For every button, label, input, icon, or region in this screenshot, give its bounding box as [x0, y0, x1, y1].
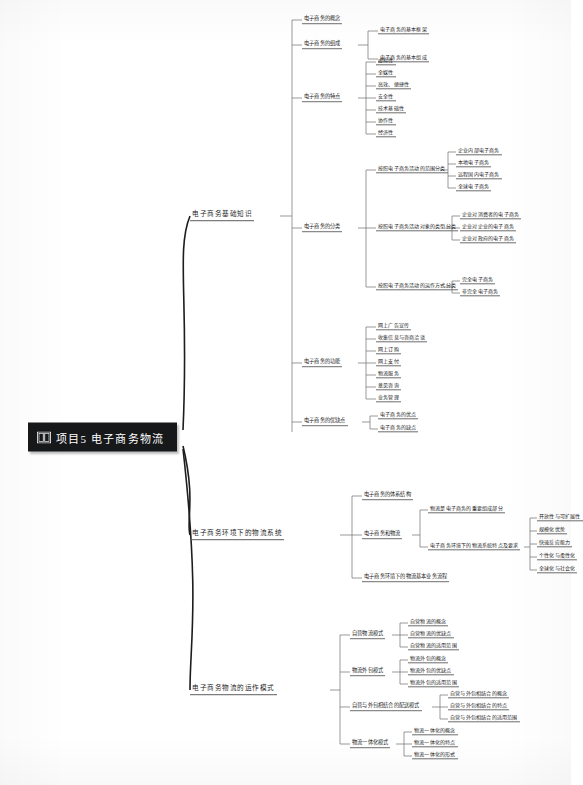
node-ecommerce-features[interactable]: 电子商务的特点 [302, 94, 342, 102]
node-logistics-features-requirements[interactable]: 电子商务环境下的物流系统特点及要求 [428, 543, 520, 550]
node-class-by-operation-mode[interactable]: 按照电子商务活动的运作方式分类 [376, 283, 458, 290]
node-outsourcing-mode[interactable]: 物流外包模式 [350, 668, 385, 676]
node-integration-features[interactable]: 物流一体化的特点 [412, 740, 458, 747]
node-feature-secure[interactable]: 安全性 [376, 94, 396, 101]
node-scope-domestic-remote[interactable]: 远程国内电子商务 [456, 172, 502, 179]
node-outsourcing-concept[interactable]: 物流外包的概念 [408, 656, 448, 663]
node-complete-ecommerce[interactable]: 完全电子商务 [460, 277, 495, 284]
node-scope-local[interactable]: 本地电子商务 [456, 160, 491, 167]
node-hybrid-concept[interactable]: 自营与外包相结合的概念 [448, 691, 509, 698]
node-hybrid-features[interactable]: 自营与外包相结合的特点 [448, 703, 509, 710]
branch-node-operation-modes[interactable]: 电子商务物流的运作模式 [190, 685, 277, 695]
root-label: 项目5 电子商务物流 [56, 429, 164, 445]
node-feature-economic[interactable]: 经济性 [376, 130, 396, 137]
node-integration-mode[interactable]: 物流一体化模式 [350, 740, 390, 748]
node-disadvantages[interactable]: 电子商务的缺点 [378, 425, 418, 432]
open-book-icon [37, 431, 51, 443]
node-ecommerce-and-logistics[interactable]: 电子商务和物流 [362, 531, 402, 539]
node-hybrid-scope[interactable]: 自营与外包相结合的适用范围 [448, 715, 520, 722]
node-ecommerce-classification[interactable]: 电子商务的分类 [302, 224, 342, 232]
branch-node-logistics-system[interactable]: 电子商务环境下的物流系统 [190, 530, 284, 540]
node-function-online-ads[interactable]: 网上广告宣传 [376, 323, 411, 330]
node-scope-global[interactable]: 全球电子商务 [456, 184, 491, 191]
node-personalization-flexibility[interactable]: 个性化与柔性化 [537, 553, 577, 560]
node-integration-concept[interactable]: 物流一体化的概念 [412, 728, 458, 735]
node-ecommerce-composition[interactable]: 电子商务的组成 [302, 41, 342, 49]
node-function-logistics[interactable]: 物流服务 [376, 371, 401, 378]
root-node[interactable]: 项目5 电子商务物流 [28, 423, 177, 452]
node-b2b[interactable]: 企业对企业的电子商务 [460, 224, 516, 231]
node-incomplete-ecommerce[interactable]: 非完全电子商务 [460, 289, 500, 296]
node-function-info-consult[interactable]: 收集信息与咨商洽谈 [376, 335, 427, 342]
node-ecommerce-architecture[interactable]: 电子商务的体系结构 [362, 492, 413, 500]
node-advantages[interactable]: 电子商务的优点 [378, 412, 418, 419]
node-logistics-basic-process[interactable]: 电子商务环境下的物流基本业务流程 [362, 574, 449, 582]
node-scale-advantage[interactable]: 规模化优势 [537, 527, 567, 534]
node-outsourcing-pros-cons[interactable]: 物流外包的优缺点 [408, 668, 454, 675]
node-hybrid-distribution-mode[interactable]: 自营与外包相结合的配送模式 [350, 703, 422, 711]
node-rapid-response[interactable]: 快速反应能力 [537, 540, 572, 547]
node-logistics-key-part[interactable]: 物流是电子商务的重要组成部分 [428, 506, 505, 513]
node-self-operated-mode[interactable]: 自营物流模式 [350, 631, 385, 639]
node-function-online-payment[interactable]: 网上支付 [376, 359, 401, 366]
node-self-operated-scope[interactable]: 自营物流的适用范围 [408, 643, 459, 650]
node-integration-forms[interactable]: 物流一体化的形式 [412, 752, 458, 759]
node-function-online-order[interactable]: 网上订购 [376, 347, 401, 354]
node-function-feedback[interactable]: 意见咨询 [376, 383, 401, 390]
node-ecommerce-concept[interactable]: 电子商务的概念 [302, 16, 342, 24]
node-feature-allmedia[interactable]: 全媒性 [376, 70, 396, 77]
node-globalization-socialization[interactable]: 全球化与社会化 [537, 566, 577, 573]
node-class-by-object-type[interactable]: 按照电子商务活动对象的类型分类 [376, 224, 458, 231]
node-self-operated-concept[interactable]: 自营物流的概念 [408, 619, 448, 626]
node-ecommerce-functions[interactable]: 电子商务的功能 [302, 359, 342, 367]
node-outsourcing-scope[interactable]: 物流外包的适用范围 [408, 680, 459, 687]
node-basic-framework[interactable]: 电子商务的基本框架 [378, 27, 429, 34]
node-feature-virtual[interactable]: 虚拟性 [376, 58, 396, 65]
node-feature-collaborative[interactable]: 协作性 [376, 118, 396, 125]
node-self-operated-pros-cons[interactable]: 自营物流的优缺点 [408, 631, 454, 638]
branch-node-ecommerce-basics[interactable]: 电子商务基础知识 [190, 211, 254, 221]
node-scope-intra-enterprise[interactable]: 企业内部电子商务 [456, 148, 502, 155]
node-openness-scalability[interactable]: 开放性与可扩展性 [537, 514, 583, 521]
node-feature-efficient[interactable]: 高效、便捷性 [376, 82, 411, 89]
node-function-business-mgmt[interactable]: 业务管理 [376, 395, 401, 402]
node-pros-and-cons[interactable]: 电子商务的优缺点 [302, 418, 348, 426]
node-class-by-scope[interactable]: 按照电子商务活动的范围分类 [376, 166, 448, 173]
node-b2g[interactable]: 企业对政府的电子商务 [460, 236, 516, 243]
node-feature-technical[interactable]: 技术基础性 [376, 106, 406, 113]
node-b2c[interactable]: 企业对消费者的电子商务 [460, 212, 521, 219]
